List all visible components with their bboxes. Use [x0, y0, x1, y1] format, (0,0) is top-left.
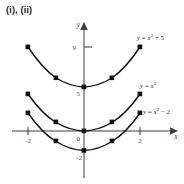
curve-label-middle-eq: = — [143, 82, 150, 90]
parabola-translation-figure: (i), (ii) y x -2 2 9 5 0 -2 — [0, 0, 184, 184]
y-tick-label-0: 0 — [77, 135, 81, 143]
curve-label-lower-tail: − 2 — [159, 108, 170, 116]
y-axis-label: y — [76, 20, 81, 29]
data-point — [82, 148, 87, 153]
data-point — [110, 139, 115, 144]
data-point — [138, 111, 143, 116]
data-point — [138, 45, 143, 50]
data-point — [82, 129, 87, 134]
y-axis-arrowhead — [80, 22, 88, 30]
data-point — [26, 92, 31, 97]
data-point — [26, 111, 31, 116]
data-point — [82, 85, 87, 90]
x-tick-label-neg2: -2 — [25, 137, 31, 145]
data-point — [110, 120, 115, 125]
axes-group — [12, 22, 178, 178]
curve-label-upper-eq: = — [140, 34, 147, 42]
y-tick-label-9: 9 — [73, 44, 77, 52]
data-point — [54, 139, 59, 144]
curve-label-lower-eq: = — [146, 108, 153, 116]
curve-label-lower: y = x2 − 2 — [142, 107, 171, 116]
curve-label-upper-tail: + 5 — [153, 34, 164, 42]
curve-label-upper: y = x2 + 5 — [136, 33, 165, 42]
x-axis-label: x — [173, 132, 178, 141]
data-point — [54, 120, 59, 125]
plot-canvas: y x -2 2 9 5 0 -2 — [0, 0, 184, 184]
x-tick-label-pos2: 2 — [138, 137, 142, 145]
data-point — [26, 45, 31, 50]
curve-label-middle-exp: 2 — [154, 81, 157, 86]
y-tick-label-5: 5 — [77, 90, 81, 98]
data-point — [138, 92, 143, 97]
curve-label-middle: y = x2 — [139, 81, 157, 90]
data-point — [54, 76, 59, 81]
y-tick-label-neg2: -2 — [76, 154, 82, 162]
data-point — [110, 76, 115, 81]
